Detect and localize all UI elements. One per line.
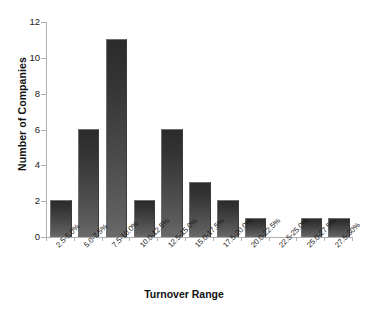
- x-axis-title: Turnover Range: [0, 288, 368, 300]
- x-axis-tick: [185, 237, 186, 241]
- x-axis-tick: [324, 237, 325, 241]
- bar: [106, 39, 127, 237]
- y-axis-tick-label: 2: [0, 195, 40, 206]
- y-axis-tick-label: 4: [0, 159, 40, 170]
- y-axis-tick: [41, 94, 46, 95]
- y-axis-tick: [41, 201, 46, 202]
- bar-chart: Number of Companies 024681012 2.5-5.0%5.…: [0, 0, 368, 316]
- y-axis-tick: [41, 130, 46, 131]
- y-axis-tick-label: 0: [0, 231, 40, 242]
- plot-area: 024681012: [46, 22, 352, 237]
- x-axis-tick: [102, 237, 103, 241]
- y-axis-tick-label: 10: [0, 52, 40, 63]
- y-axis-tick: [41, 58, 46, 59]
- y-axis-tick-label: 12: [0, 16, 40, 27]
- y-axis-tick: [41, 22, 46, 23]
- y-axis-tick-label: 8: [0, 88, 40, 99]
- x-axis-tick: [213, 237, 214, 241]
- x-axis-tick: [74, 237, 75, 241]
- y-axis-tick-label: 6: [0, 124, 40, 135]
- y-axis-line: [46, 22, 47, 237]
- bar: [78, 129, 99, 238]
- x-axis-tick: [296, 237, 297, 241]
- x-axis-tick: [352, 237, 353, 241]
- x-axis-tick: [269, 237, 270, 241]
- x-axis-tick: [129, 237, 130, 241]
- x-axis-tick: [157, 237, 158, 241]
- y-axis-tick: [41, 165, 46, 166]
- x-axis-tick: [241, 237, 242, 241]
- x-axis-tick: [46, 237, 47, 241]
